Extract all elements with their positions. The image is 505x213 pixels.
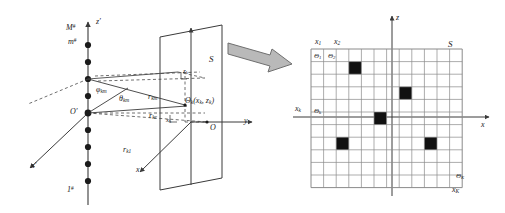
cell-label-theta-K: ΘK bbox=[456, 173, 464, 181]
r-km-label: rkm bbox=[148, 93, 157, 102]
grid-cell-filled bbox=[336, 137, 349, 150]
phi-km-label: φkm bbox=[96, 86, 107, 95]
grid-x-axis-label: x bbox=[481, 121, 485, 129]
o-prime-label: O′ bbox=[70, 108, 78, 116]
array-plane-oblique-left bbox=[28, 79, 88, 104]
cell-label-theta-k: Θk bbox=[314, 108, 321, 116]
grid-cell-filled bbox=[374, 112, 387, 125]
expand-arrow-shape bbox=[228, 43, 292, 72]
expand-arrow-group bbox=[228, 43, 292, 72]
right-panel-group bbox=[293, 16, 489, 196]
grid-cell-filled bbox=[399, 87, 412, 100]
grid-col-label-x1: x1 bbox=[315, 38, 321, 47]
figure-container: M# z′ m# 1# φkm θkm rkm rkc rk1 O′ O S Θ… bbox=[0, 0, 505, 213]
grid-cell-filled bbox=[349, 62, 362, 75]
z-prime-axis-label: z′ bbox=[96, 18, 101, 26]
cell-label-theta-2: Θ2 bbox=[328, 53, 335, 61]
grid-z-axis-label: z bbox=[396, 14, 399, 22]
o-prime-marker bbox=[85, 110, 90, 115]
left-panel-group bbox=[28, 22, 252, 205]
array-element-label: m# bbox=[68, 38, 77, 46]
x-k-projection-label: xk bbox=[166, 117, 171, 125]
o-prime-to-o-dashed bbox=[88, 113, 207, 122]
grid-col-label-x2: x2 bbox=[334, 38, 340, 47]
y-axis-label: y bbox=[244, 117, 248, 125]
array-top-label: M# bbox=[66, 24, 75, 32]
array-plane-dashed-b bbox=[98, 78, 205, 81]
r-k1-label: rk1 bbox=[123, 146, 131, 155]
cell-label-theta-1: Θ1 bbox=[314, 53, 321, 61]
x-prime-axis-label: x′ bbox=[31, 162, 36, 170]
grid-cell-filled bbox=[424, 137, 437, 150]
grid-row-label-xk: xk bbox=[295, 105, 301, 114]
r-kc-label: rkc bbox=[149, 112, 157, 121]
array-bottom-label: 1# bbox=[67, 186, 74, 194]
x-prime-axis-line bbox=[30, 113, 88, 168]
o-label: O bbox=[210, 124, 216, 132]
plane-s-label: S bbox=[209, 55, 214, 64]
x-axis-line bbox=[140, 122, 191, 172]
grid-lines-group bbox=[311, 49, 462, 188]
o-marker bbox=[205, 120, 208, 123]
z-k-projection-label: zk bbox=[183, 68, 188, 76]
theta-km-label: θkm bbox=[119, 95, 129, 104]
grid-s-label: S bbox=[448, 40, 453, 49]
target-point-label: Θk(xk, zk) bbox=[185, 97, 214, 106]
grid-col-label-xK: xK bbox=[452, 186, 459, 195]
x-axis-label: x bbox=[136, 166, 140, 174]
r-kc-ray bbox=[88, 106, 187, 113]
